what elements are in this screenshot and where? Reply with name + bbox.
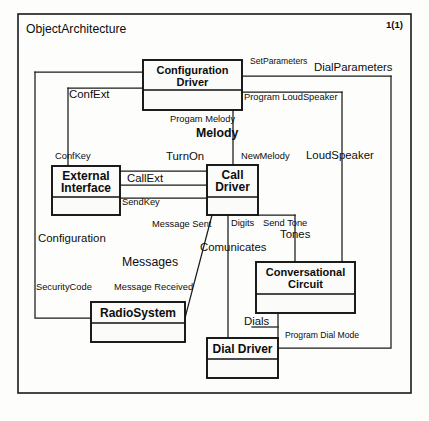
signal-label-digits: Digits	[231, 218, 255, 228]
block-label-line1: Conversational	[266, 266, 345, 278]
diagram-title: ObjectArchitecture	[26, 22, 126, 36]
diagram-canvas: ConfigurationDriverExternalInterfaceCall…	[0, 0, 429, 421]
signal-label-loud-speaker: LoudSpeaker	[306, 149, 374, 161]
signal-label-program-dial-mode: Program Dial Mode	[285, 330, 359, 340]
signal-label-send-key: SendKey	[122, 197, 160, 207]
signal-label-turn-on: TurnOn	[166, 150, 204, 162]
signal-label-security-code: SecurityCode	[36, 282, 92, 292]
signal-label-conf-key: ConfKey	[55, 151, 91, 161]
signal-label-message-received: Message Received	[114, 282, 193, 292]
signal-label-message-sent: Message Sent	[152, 219, 212, 229]
block-label-line1: Configuration	[156, 64, 228, 76]
signal-label-conf-ext: ConfExt	[69, 88, 110, 100]
signal-label-progam-melody: Progam Melody	[170, 114, 235, 124]
block-label-line2: Interface	[61, 181, 111, 195]
signal-label-call-ext: CallExt	[127, 172, 164, 184]
page-indicator: 1(1)	[386, 19, 403, 30]
block-dial-driver[interactable]: Dial Driver	[207, 338, 278, 378]
signal-label-set-parameters: SetParameters	[250, 56, 307, 66]
block-label-line2: Circuit	[288, 278, 323, 290]
signal-label-comunicates: Comunicates	[200, 241, 267, 253]
signal-label-tones: Tones	[280, 228, 311, 240]
wire-message-sent	[185, 215, 212, 318]
block-radio-system[interactable]: RadioSystem	[91, 302, 185, 342]
block-label-line2: Driver	[215, 180, 250, 194]
block-external-interface[interactable]: ExternalInterface	[52, 166, 120, 215]
block-label-line1: RadioSystem	[100, 306, 176, 320]
signal-label-configuration: Configuration	[38, 232, 106, 244]
block-conversational-circuit[interactable]: ConversationalCircuit	[256, 262, 355, 313]
signal-label-new-melody: NewMelody	[241, 151, 290, 161]
object-architecture-diagram: ConfigurationDriverExternalInterfaceCall…	[0, 0, 429, 421]
signal-label-dials: Dials	[244, 315, 270, 327]
block-call-driver[interactable]: CallDriver	[207, 165, 258, 215]
signal-label-melody: Melody	[196, 126, 239, 140]
signal-label-messages: Messages	[122, 255, 178, 269]
block-label-line1: Dial Driver	[212, 342, 272, 356]
signal-label-dial-parameters: DialParameters	[314, 61, 393, 73]
block-label-line2: Driver	[177, 76, 210, 88]
block-configuration-driver[interactable]: ConfigurationDriver	[143, 60, 242, 110]
signal-label-program-loudspeaker: Program LoudSpeaker	[244, 92, 338, 102]
signal-label-send-tone: Send Tone	[263, 218, 307, 228]
